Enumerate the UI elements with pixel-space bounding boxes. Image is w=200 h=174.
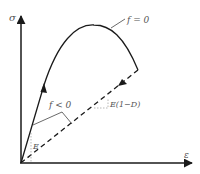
damaged-modulus-label: E(1−D) [109,100,140,109]
unloading-arrow-icon [118,79,127,86]
e-label: E [32,142,39,151]
f-zero-label: f = 0 [126,15,150,25]
f-zero-leader [111,19,125,28]
y-axis-label: σ [9,12,17,23]
damage-diagram: f = 0 f < 0 E E(1−D) σ ε [0,0,200,174]
f-negative-leader [33,112,72,125]
loading-arrow-icon [41,83,48,93]
diagram-svg: f = 0 f < 0 E E(1−D) σ ε [0,0,200,174]
f-negative-label: f < 0 [48,100,72,110]
x-axis-label: ε [184,150,189,160]
